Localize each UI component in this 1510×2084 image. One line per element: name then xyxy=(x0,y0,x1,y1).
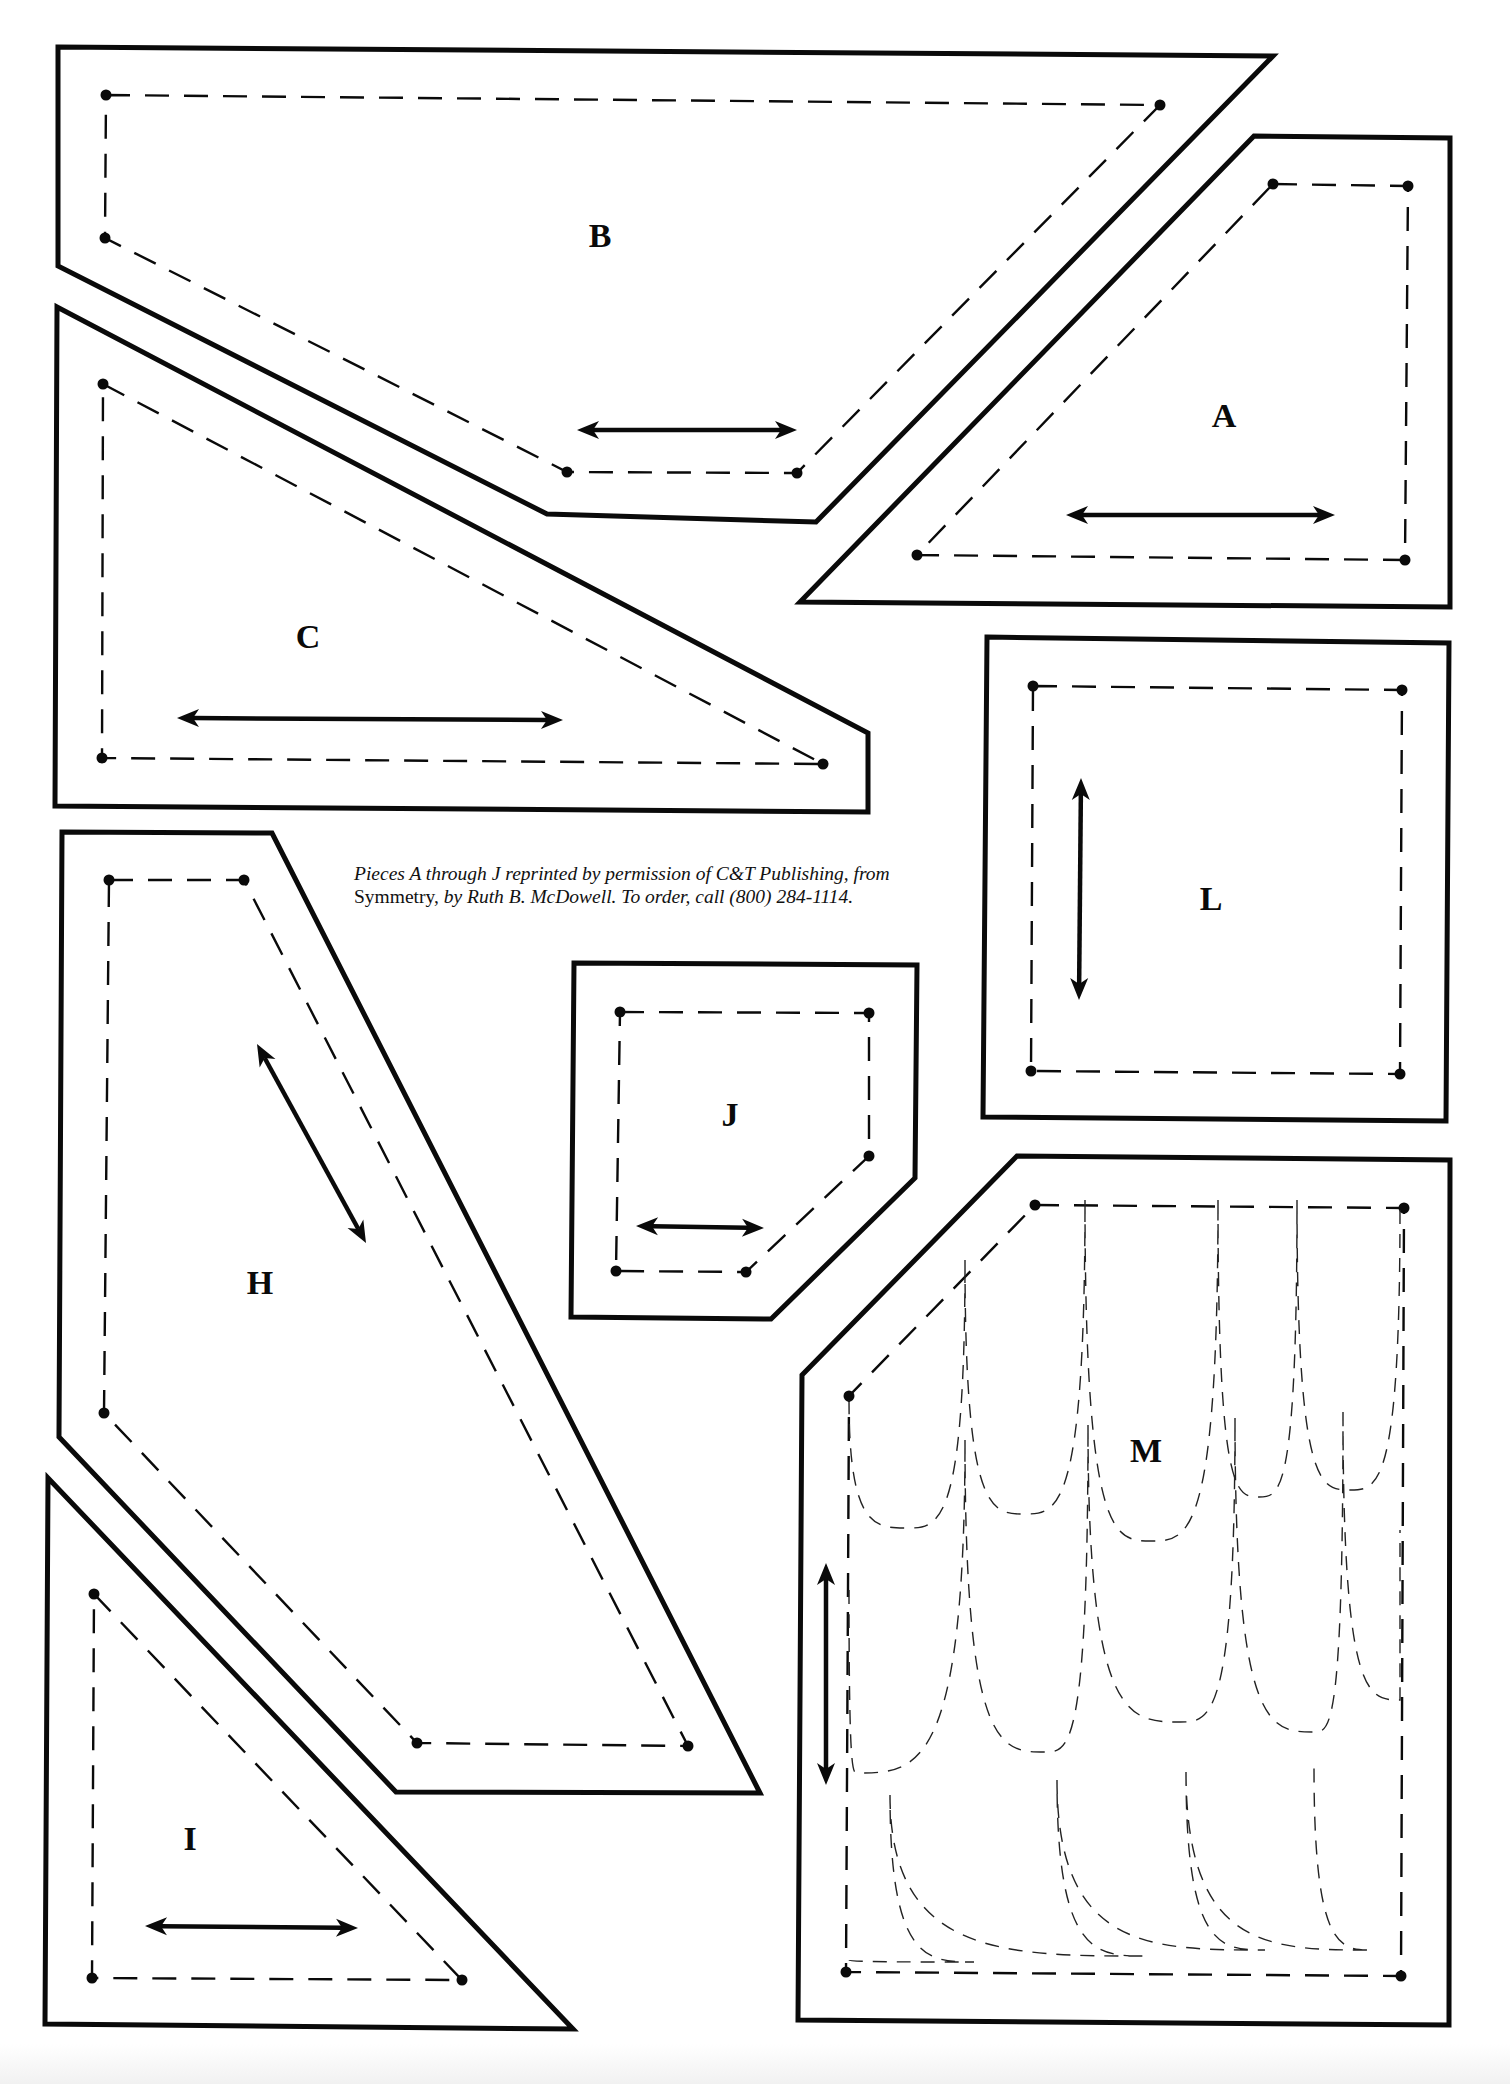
grainline-arrow-icon xyxy=(636,1217,764,1236)
cutting-line xyxy=(59,832,760,1793)
seam-corner-dot-icon xyxy=(99,1408,110,1419)
seam-corner-dot-icon xyxy=(1397,685,1408,696)
seam-corner-dot-icon xyxy=(844,1391,855,1402)
seam-corner-dot-icon xyxy=(611,1266,622,1277)
pattern-piece-j: J xyxy=(571,963,917,1319)
pattern-sheet: BACLJHIM Pieces A through J reprinted by… xyxy=(0,0,1510,2084)
seam-corner-dot-icon xyxy=(615,1007,626,1018)
seam-corner-dot-icon xyxy=(89,1589,100,1600)
credit-line-2-rest: by Ruth B. McDowell. To order, call (800… xyxy=(439,886,853,907)
grainline-arrow-icon xyxy=(577,421,797,439)
seam-corner-dot-icon xyxy=(912,550,923,561)
piece-label-a: A xyxy=(1212,397,1237,434)
seam-corner-dot-icon xyxy=(100,233,111,244)
pattern-piece-b: B xyxy=(58,47,1273,522)
seam-corner-dot-icon xyxy=(97,753,108,764)
grainline-shaft xyxy=(193,718,547,720)
seam-corner-dot-icon xyxy=(1030,1200,1041,1211)
seam-line xyxy=(846,1205,1404,1976)
scallop-row-3 xyxy=(849,1768,1372,1962)
piece-label-i: I xyxy=(183,1820,196,1857)
grainline-arrow-icon xyxy=(1070,778,1090,1000)
permission-credit: Pieces A through J reprinted by permissi… xyxy=(354,862,994,908)
grainline-arrow-icon xyxy=(817,1563,835,1785)
seam-corner-dot-icon xyxy=(87,1973,98,1984)
credit-line-1: Pieces A through J reprinted by permissi… xyxy=(354,862,994,885)
seam-corner-dot-icon xyxy=(562,467,573,478)
grainline-shaft xyxy=(1079,794,1081,984)
grainline-arrow-icon xyxy=(145,1917,358,1937)
seam-corner-dot-icon xyxy=(818,759,829,770)
seam-corner-dot-icon xyxy=(98,379,109,390)
piece-label-l: L xyxy=(1200,880,1223,917)
grainline-shaft xyxy=(161,1926,342,1928)
seam-corner-dot-icon xyxy=(104,875,115,886)
scallop-row-2 xyxy=(849,1412,1400,1773)
grainline-arrow-icon xyxy=(177,709,563,729)
seam-corner-dot-icon xyxy=(1396,1971,1407,1982)
pattern-piece-h: H xyxy=(59,832,760,1793)
credit-line-2: Symmetry, by Ruth B. McDowell. To order,… xyxy=(354,885,994,908)
grainline-arrow-icon xyxy=(257,1044,366,1243)
seam-line xyxy=(102,384,823,764)
pattern-drawing: BACLJHIM xyxy=(0,0,1510,2084)
book-title: Symmetry, xyxy=(354,886,439,907)
quilting-scallops xyxy=(849,1200,1400,1962)
page-bottom-shadow xyxy=(0,2044,1510,2084)
seam-corner-dot-icon xyxy=(239,875,250,886)
cutting-line xyxy=(55,307,868,812)
pattern-piece-m: M xyxy=(798,1156,1450,2025)
piece-label-c: C xyxy=(296,618,321,655)
pattern-piece-l: L xyxy=(983,637,1449,1121)
seam-corner-dot-icon xyxy=(412,1738,423,1749)
pattern-piece-i: I xyxy=(45,1478,573,2029)
seam-corner-dot-icon xyxy=(1026,1066,1037,1077)
seam-corner-dot-icon xyxy=(683,1741,694,1752)
grainline-shaft xyxy=(652,1226,748,1228)
seam-corner-dot-icon xyxy=(1155,100,1166,111)
seam-corner-dot-icon xyxy=(457,1975,468,1986)
seam-corner-dot-icon xyxy=(1400,555,1411,566)
seam-line xyxy=(92,1594,462,1980)
seam-corner-dot-icon xyxy=(1403,181,1414,192)
cutting-line xyxy=(58,47,1273,522)
piece-label-b: B xyxy=(589,217,612,254)
seam-corner-dot-icon xyxy=(1395,1069,1406,1080)
cutting-line xyxy=(798,1156,1450,2025)
seam-corner-dot-icon xyxy=(841,1967,852,1978)
seam-line xyxy=(917,184,1408,560)
cutting-line xyxy=(45,1478,573,2029)
seam-line xyxy=(104,880,688,1746)
seam-corner-dot-icon xyxy=(864,1151,875,1162)
grainline-shaft xyxy=(265,1058,359,1229)
grainline-arrow-icon xyxy=(1066,506,1335,524)
piece-label-m: M xyxy=(1130,1432,1162,1469)
piece-label-j: J xyxy=(722,1096,739,1133)
scallop-row-1 xyxy=(849,1200,1400,1541)
seam-corner-dot-icon xyxy=(1268,179,1279,190)
seam-corner-dot-icon xyxy=(864,1008,875,1019)
piece-label-h: H xyxy=(247,1264,273,1301)
pattern-piece-c: C xyxy=(55,307,868,812)
seam-corner-dot-icon xyxy=(792,468,803,479)
seam-corner-dot-icon xyxy=(741,1267,752,1278)
seam-corner-dot-icon xyxy=(1028,681,1039,692)
seam-corner-dot-icon xyxy=(101,90,112,101)
